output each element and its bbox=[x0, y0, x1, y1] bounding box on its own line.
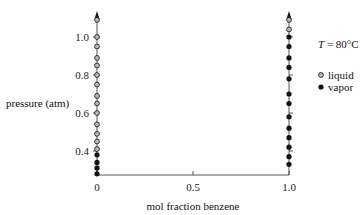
liquid-point bbox=[95, 56, 100, 61]
vapor-point bbox=[286, 91, 291, 96]
pressure-composition-chart: 00.51.00.40.60.81.0 pressure (atm) mol f… bbox=[0, 0, 363, 215]
x-tick-label: 0.5 bbox=[186, 181, 200, 193]
y-tick-label: 0.8 bbox=[75, 69, 89, 81]
liquid-point bbox=[95, 18, 100, 23]
liquid-point bbox=[95, 147, 100, 152]
legend-filled-circle-icon bbox=[318, 84, 323, 89]
vapor-point bbox=[94, 152, 99, 157]
x-tick-label: 1.0 bbox=[282, 181, 296, 193]
y-tick-label: 1.0 bbox=[75, 31, 89, 43]
liquid-point bbox=[287, 18, 292, 23]
legend-liquid-label: liquid bbox=[328, 69, 354, 81]
vapor-point bbox=[286, 145, 291, 150]
y-tick-label: 0.6 bbox=[75, 107, 89, 119]
x-tick-label: 0 bbox=[94, 181, 100, 193]
vapor-point bbox=[286, 126, 291, 131]
liquid-point bbox=[287, 27, 292, 32]
liquid-point bbox=[95, 35, 100, 40]
vapor-point bbox=[286, 65, 291, 70]
legend-open-circle-icon bbox=[319, 73, 324, 78]
liquid-point bbox=[95, 63, 100, 68]
axes: 00.51.00.40.60.81.0 bbox=[75, 11, 296, 193]
liquid-point bbox=[95, 82, 100, 87]
vapor-point bbox=[286, 154, 291, 159]
liquid-point bbox=[95, 111, 100, 116]
vapor-point bbox=[286, 34, 291, 39]
y-tick-label: 0.4 bbox=[75, 145, 89, 157]
liquid-point bbox=[95, 73, 100, 78]
y-axis-label: pressure (atm) bbox=[6, 97, 70, 110]
legend: liquid vapor bbox=[318, 69, 354, 93]
temperature-value: = 80°C bbox=[324, 38, 358, 50]
liquid-point bbox=[95, 122, 100, 127]
legend-vapor-label: vapor bbox=[328, 81, 353, 93]
vapor-point bbox=[286, 44, 291, 49]
vapor-point bbox=[286, 101, 291, 106]
data-markers bbox=[94, 18, 291, 177]
liquid-point bbox=[95, 94, 100, 99]
liquid-point bbox=[95, 132, 100, 137]
vapor-point bbox=[286, 55, 291, 60]
liquid-point bbox=[95, 101, 100, 106]
vapor-point bbox=[286, 135, 291, 140]
vapor-point bbox=[286, 114, 291, 119]
vapor-point bbox=[286, 162, 291, 167]
vapor-point bbox=[94, 166, 99, 171]
axis-labels: pressure (atm) mol fraction benzene bbox=[6, 97, 240, 212]
vapor-point bbox=[286, 76, 291, 81]
x-axis-label: mol fraction benzene bbox=[147, 200, 240, 212]
vapor-point bbox=[94, 171, 99, 176]
liquid-point bbox=[95, 139, 100, 144]
vapor-point bbox=[94, 160, 99, 165]
temperature-annotation: T = 80°C bbox=[318, 38, 359, 50]
liquid-point bbox=[95, 44, 100, 49]
svg-text:T = 80°C: T = 80°C bbox=[318, 38, 359, 50]
